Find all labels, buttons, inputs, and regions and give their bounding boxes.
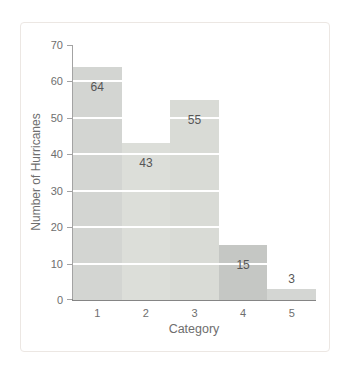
y-tick-label-50: 50 (51, 112, 63, 124)
y-tick-label-0: 0 (57, 294, 63, 306)
y-tick-label-20: 20 (51, 221, 63, 233)
gridline-y-40 (73, 153, 316, 155)
bar-value-label: 3 (267, 272, 316, 286)
x-axis-ticks: 12345 (73, 306, 316, 320)
x-tick-label-1: 1 (73, 306, 122, 320)
x-axis-title: Category (72, 322, 316, 337)
bar-category-4 (219, 245, 268, 300)
gridline-y-10 (73, 263, 316, 265)
y-tick-label-70: 70 (51, 39, 63, 51)
y-axis: 010203040506070 (0, 45, 72, 300)
x-tick-label-3: 3 (170, 306, 219, 320)
bar-value-label: 55 (170, 113, 219, 127)
plot-area: 644355153 (72, 45, 316, 300)
gridline-y-30 (73, 190, 316, 192)
bar-category-1 (73, 67, 122, 300)
y-tick-label-60: 60 (51, 75, 63, 87)
bar-value-label: 15 (219, 258, 268, 272)
gridline-y-20 (73, 226, 316, 228)
x-tick-label-4: 4 (219, 306, 268, 320)
bar-category-5 (267, 289, 316, 300)
y-tick-label-10: 10 (51, 258, 63, 270)
x-tick-label-2: 2 (122, 306, 171, 320)
bar-value-label: 64 (73, 80, 122, 94)
hurricane-bar-chart: Number of Hurricanes 010203040506070 644… (0, 0, 349, 373)
bar-category-3 (170, 100, 219, 300)
bar-value-label: 43 (122, 156, 171, 170)
y-tick-label-40: 40 (51, 148, 63, 160)
x-tick-label-5: 5 (267, 306, 316, 320)
y-tick-label-30: 30 (51, 185, 63, 197)
